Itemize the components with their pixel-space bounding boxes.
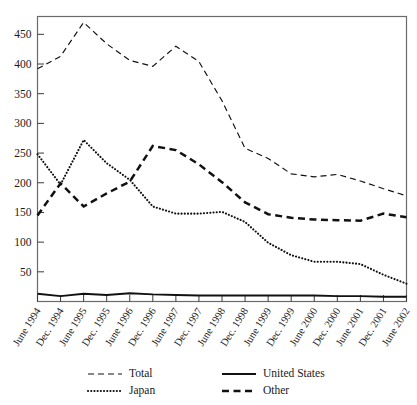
series-line-other (38, 146, 407, 221)
y-tick-label-7: 400 (14, 58, 32, 70)
legend-label-other: Other (263, 384, 289, 396)
line-chart: 50100150200250300350400450June 1994Dec. … (0, 0, 417, 405)
plot-frame (38, 17, 407, 302)
y-tick-label-3: 200 (14, 177, 32, 189)
legend-label-total: Total (129, 367, 152, 379)
series-line-united-states (38, 293, 407, 297)
legend-label-japan: Japan (129, 384, 155, 397)
chart-container: 50100150200250300350400450June 1994Dec. … (0, 0, 417, 405)
y-tick-label-5: 300 (14, 117, 32, 129)
series-line-japan (38, 140, 407, 284)
series-line-total (38, 22, 407, 195)
y-tick-label-6: 350 (14, 88, 32, 100)
legend-label-united-states: United States (263, 367, 325, 379)
y-tick-label-2: 150 (14, 206, 32, 218)
y-tick-label-1: 100 (14, 236, 32, 248)
y-tick-label-0: 50 (20, 266, 32, 278)
y-tick-label-8: 450 (14, 28, 32, 40)
y-tick-label-4: 250 (14, 147, 32, 159)
